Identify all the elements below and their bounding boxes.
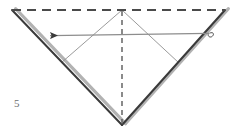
dashed-crease-group: [12, 10, 225, 124]
origami-diagram-svg: [0, 0, 239, 134]
left-edge-shadow: [16, 9, 126, 124]
inner-crease-group: [61, 10, 179, 63]
inner-right-crease: [122, 10, 179, 63]
right-outer-edge: [122, 10, 225, 125]
inner-left-crease: [61, 10, 122, 63]
fold-arrow-group: [50, 33, 213, 37]
fold-arrow-shaft: [50, 33, 209, 35]
right-edge-shadow: [125, 9, 228, 124]
outer-edge-group: [12, 10, 225, 125]
step-number-label: 5: [14, 98, 20, 109]
origami-step-figure: 5: [0, 0, 239, 134]
left-outer-edge: [12, 10, 122, 125]
